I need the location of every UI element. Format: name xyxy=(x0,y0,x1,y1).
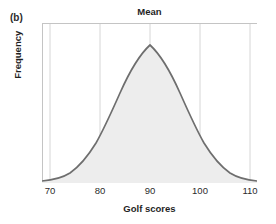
distribution-fill xyxy=(42,45,257,183)
chart-title: Mean xyxy=(42,7,257,17)
x-tick-label-110: 110 xyxy=(235,186,265,196)
plot-area xyxy=(42,23,257,183)
x-tick-label-100: 100 xyxy=(185,186,215,196)
x-axis-label: Golf scores xyxy=(42,204,257,214)
distribution-plot xyxy=(42,23,257,183)
figure-panel-b: (b) Mean Frequency 70 80 xyxy=(0,0,276,224)
x-tick-label-80: 80 xyxy=(85,186,115,196)
x-tick-label-90: 90 xyxy=(135,186,165,196)
y-axis-label: Frequency xyxy=(13,0,23,115)
x-tick-label-70: 70 xyxy=(35,186,65,196)
